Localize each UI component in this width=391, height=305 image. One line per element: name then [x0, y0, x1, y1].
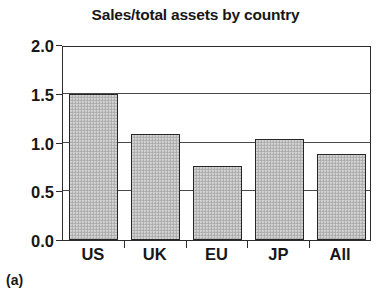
y-axis-tick-labels: 0.00.51.01.52.0 [0, 46, 56, 241]
x-tick-label-all: All [330, 245, 351, 264]
y-tick-mark-1.0 [56, 143, 62, 144]
y-tick-label-1.0: 1.0 [0, 134, 54, 153]
y-tick-label-1.5: 1.5 [0, 85, 54, 104]
chart-title: Sales/total assets by country [0, 6, 391, 24]
x-tick-label-eu: EU [205, 245, 228, 264]
x-axis-tick-labels: USUKEUJPAll [62, 245, 371, 271]
y-tick-mark-0.0 [56, 240, 62, 241]
y-tick-mark-1.5 [56, 94, 62, 95]
x-tick-mark-3 [247, 241, 248, 248]
plot-area [62, 46, 371, 241]
y-tick-label-0.5: 0.5 [0, 183, 54, 202]
bar-jp [255, 139, 304, 240]
panel-label: (a) [6, 272, 23, 288]
y-tick-mark-2.0 [56, 45, 62, 46]
x-tick-mark-2 [186, 241, 187, 248]
bar-eu [193, 166, 242, 240]
x-tick-label-us: US [81, 245, 104, 264]
y-tick-mark-0.5 [56, 191, 62, 192]
x-tick-label-jp: JP [268, 245, 288, 264]
x-tick-label-uk: UK [143, 245, 167, 264]
bar-us [69, 94, 118, 240]
y-tick-label-2.0: 2.0 [0, 37, 54, 56]
bar-all [317, 154, 366, 240]
figure-panel-a: Sales/total assets by country 0.00.51.01… [0, 0, 391, 305]
y-tick-label-0.0: 0.0 [0, 232, 54, 251]
x-tick-mark-1 [124, 241, 125, 248]
x-tick-mark-4 [309, 241, 310, 248]
bar-uk [131, 134, 180, 240]
